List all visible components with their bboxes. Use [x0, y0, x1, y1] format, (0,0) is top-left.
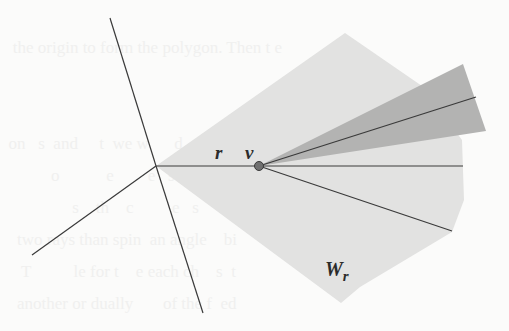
- figure-canvas: the origin to form the polygon. Then t e…: [0, 0, 509, 331]
- label-r: r: [215, 142, 223, 163]
- vertex-v-dot: [255, 162, 264, 171]
- edge-upper: [110, 18, 156, 166]
- region-w-r: [156, 33, 464, 303]
- label-v: v: [245, 142, 254, 163]
- edge-lower-left: [32, 166, 156, 255]
- geometry-diagram: r v Wr: [0, 0, 509, 331]
